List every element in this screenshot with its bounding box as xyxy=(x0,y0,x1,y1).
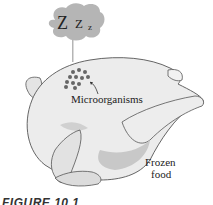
frozen-food-label-line1: Frozen xyxy=(145,156,176,168)
z-large: Z xyxy=(57,14,68,32)
chicken-body xyxy=(27,58,203,186)
figure-caption: FIGURE 10.1 xyxy=(2,196,80,205)
microorganisms-label: Microorganisms xyxy=(71,93,143,105)
z-small: z xyxy=(88,23,92,32)
frozen-food-label-line2: food xyxy=(151,168,171,180)
z-medium: Z xyxy=(75,17,83,30)
